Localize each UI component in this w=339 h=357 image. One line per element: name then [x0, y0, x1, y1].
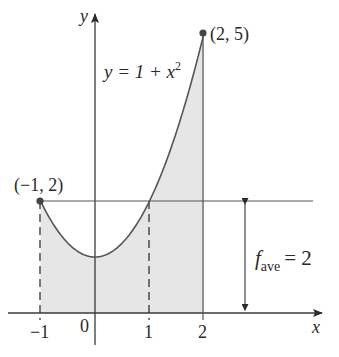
point-right-label: (2, 5)	[210, 24, 249, 45]
point-left-marker	[36, 197, 43, 204]
chart-svg: y x (2, 5) (−1, 2) y = 1 + x2 fave= 2 −1…	[0, 0, 339, 357]
average-value-figure: y x (2, 5) (−1, 2) y = 1 + x2 fave= 2 −1…	[0, 0, 339, 357]
y-axis-label: y	[78, 6, 88, 26]
fave-label: fave= 2	[255, 246, 312, 274]
tick-label-0: 0	[80, 316, 89, 336]
point-right-marker	[199, 29, 206, 36]
x-axis-label: x	[311, 317, 320, 337]
tick-label-minus-1: −1	[30, 322, 49, 342]
point-left-label: (−1, 2)	[14, 175, 63, 196]
tick-label-1: 1	[144, 322, 153, 342]
tick-label-2: 2	[198, 322, 207, 342]
function-label: y = 1 + x2	[102, 59, 181, 82]
